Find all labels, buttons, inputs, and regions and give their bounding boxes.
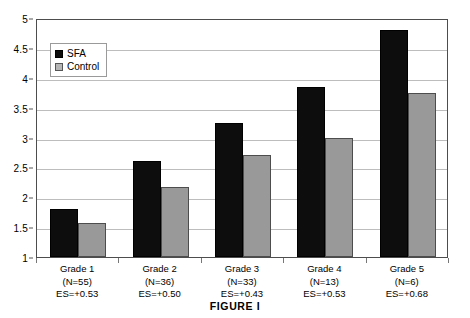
category-label-grade-2: Grade 2(N=36)ES=+0.50 (118, 263, 200, 301)
bar-sfa-grade-4 (297, 87, 325, 257)
y-axis-tick-label: 4.5 (13, 43, 28, 54)
category-sample-size: (N=55) (36, 276, 118, 289)
category-grade: Grade 3 (201, 263, 283, 276)
x-axis-tick-mark (448, 258, 449, 263)
bar-control-grade-5 (408, 93, 436, 257)
category-labels: Grade 1(N=55)ES=+0.53Grade 2(N=36)ES=+0.… (36, 263, 448, 305)
category-label-grade-1: Grade 1(N=55)ES=+0.53 (36, 263, 118, 301)
category-grade: Grade 1 (36, 263, 118, 276)
legend-swatch-sfa-icon (55, 50, 63, 58)
y-axis-tick-mark (29, 19, 33, 20)
legend-item-control: Control (55, 60, 99, 73)
category-sample-size: (N=36) (118, 276, 200, 289)
category-sample-size: (N=33) (201, 276, 283, 289)
y-axis-tick-label: 3.5 (13, 103, 28, 114)
bar-sfa-grade-3 (215, 123, 243, 257)
category-effect-size: ES=+0.43 (201, 288, 283, 301)
bar-sfa-grade-2 (133, 161, 161, 257)
y-axis-tick-label: 3 (22, 133, 28, 144)
bar-control-grade-3 (243, 155, 271, 257)
bar-control-grade-4 (325, 138, 353, 258)
y-axis: 11.522.533.544.55 (0, 0, 33, 318)
category-label-grade-3: Grade 3(N=33)ES=+0.43 (201, 263, 283, 301)
y-axis-tick-label: 5 (22, 14, 28, 25)
legend-label-sfa: SFA (67, 48, 86, 59)
category-grade: Grade 5 (366, 263, 448, 276)
figure-container: 11.522.533.544.55 Grade 1(N=55)ES=+0.53G… (0, 0, 470, 318)
category-label-grade-5: Grade 5(N=6)ES=+0.68 (366, 263, 448, 301)
y-axis-tick-label: 2.5 (13, 163, 28, 174)
legend-label-control: Control (67, 61, 99, 72)
y-axis-tick-mark (29, 228, 33, 229)
figure-caption: FIGURE I (0, 300, 470, 312)
category-label-grade-4: Grade 4(N=13)ES=+0.53 (283, 263, 365, 301)
bar-sfa-grade-1 (50, 209, 78, 257)
category-sample-size: (N=13) (283, 276, 365, 289)
y-axis-tick-label: 1 (22, 253, 28, 264)
bar-control-grade-1 (78, 223, 106, 257)
y-axis-tick-mark (29, 108, 33, 109)
category-grade: Grade 2 (118, 263, 200, 276)
y-axis-tick-mark (29, 138, 33, 139)
y-axis-tick-mark (29, 48, 33, 49)
bar-sfa-grade-5 (380, 30, 408, 257)
bar-control-grade-2 (161, 187, 189, 257)
y-axis-tick-label: 2 (22, 193, 28, 204)
category-sample-size: (N=6) (366, 276, 448, 289)
category-effect-size: ES=+0.53 (36, 288, 118, 301)
legend-swatch-control-icon (55, 63, 63, 71)
category-grade: Grade 4 (283, 263, 365, 276)
y-axis-tick-label: 4 (22, 73, 28, 84)
legend-item-sfa: SFA (55, 47, 99, 60)
category-effect-size: ES=+0.50 (118, 288, 200, 301)
y-axis-tick-mark (29, 168, 33, 169)
y-axis-tick-mark (29, 198, 33, 199)
chart-legend: SFA Control (50, 43, 107, 77)
category-effect-size: ES=+0.68 (366, 288, 448, 301)
y-axis-tick-mark (29, 78, 33, 79)
y-axis-tick-label: 1.5 (13, 223, 28, 234)
y-axis-tick-mark (29, 258, 33, 259)
category-effect-size: ES=+0.53 (283, 288, 365, 301)
